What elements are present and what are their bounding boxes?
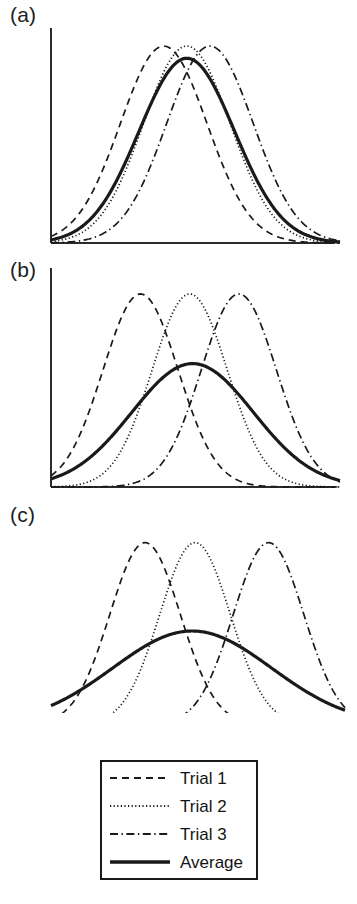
panel-a-plot <box>0 0 357 255</box>
legend-box: Trial 1 Trial 2 Trial 3 Average <box>100 760 258 880</box>
legend-item-trial-1: Trial 1 <box>102 764 256 792</box>
legend-item-trial-2: Trial 2 <box>102 792 256 820</box>
panel-b: (b) <box>0 255 357 500</box>
legend-item-average: Average <box>102 848 256 876</box>
legend-rows: Trial 1 Trial 2 Trial 3 Average <box>102 762 256 878</box>
panel-c-plot <box>0 500 357 715</box>
average-line-swatch <box>109 855 171 869</box>
panel-c: (c) <box>0 500 357 715</box>
panel-b-plot <box>0 255 357 500</box>
legend-label-average: Average <box>180 854 243 871</box>
panel-a: (a) <box>0 0 357 255</box>
figure-gaussian-averaging: (a) (b) (c) Trial 1 Trial 2 Trial 3 <box>0 0 357 904</box>
trial-1-line-swatch <box>109 771 171 785</box>
legend-label-trial-1: Trial 1 <box>180 770 227 787</box>
legend-item-trial-3: Trial 3 <box>102 820 256 848</box>
trial-3-line-swatch <box>109 827 171 841</box>
trial-2-line-swatch <box>109 799 171 813</box>
legend-label-trial-3: Trial 3 <box>180 826 227 843</box>
legend-label-trial-2: Trial 2 <box>180 798 227 815</box>
